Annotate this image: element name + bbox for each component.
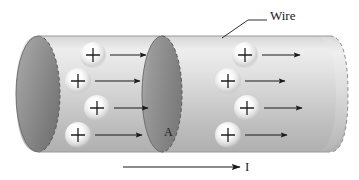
wire-label: Wire bbox=[270, 9, 295, 22]
physics-diagram-wire-current: Wire A I bbox=[0, 0, 359, 180]
cross-section-area-disk bbox=[142, 36, 182, 152]
wire-label-leader-line bbox=[222, 20, 267, 38]
diagram-canvas bbox=[0, 0, 359, 180]
current-label: I bbox=[245, 160, 249, 173]
cross-section-area-label: A bbox=[164, 126, 173, 138]
